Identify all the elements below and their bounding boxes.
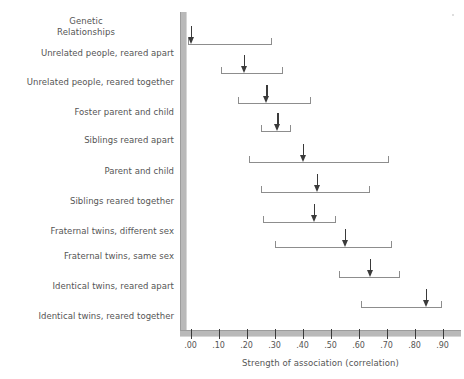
x-axis-tick-label: .80 — [402, 341, 428, 350]
median-arrow-marker — [262, 85, 271, 103]
x-axis-tick-label: .00 — [178, 341, 204, 350]
correlation-range-chart: Genetic Relationships Unrelated people, … — [0, 0, 464, 379]
range-bracket — [249, 156, 389, 163]
category-label: Foster parent and child — [2, 107, 174, 117]
arrow-head-icon — [311, 215, 317, 222]
x-axis-bar — [180, 330, 461, 337]
header-line-1: Genetic — [0, 16, 172, 27]
category-label: Fraternal twins, same sex — [2, 251, 174, 261]
arrow-head-icon — [300, 155, 306, 162]
arrow-head-icon — [342, 240, 348, 247]
median-arrow-marker — [313, 174, 322, 192]
x-axis-tick — [387, 329, 388, 339]
arrow-head-icon — [314, 185, 320, 192]
median-arrow-marker — [341, 229, 350, 247]
x-axis-tick-label: .50 — [318, 341, 344, 350]
x-axis-tick — [247, 329, 248, 339]
x-axis-tick — [303, 329, 304, 339]
median-arrow-marker — [187, 26, 196, 44]
category-label: Parent and child — [2, 166, 174, 176]
category-label: Unrelated people, reared together — [2, 77, 174, 87]
x-axis-tick-label: .30 — [262, 341, 288, 350]
x-axis-tick-label: .70 — [374, 341, 400, 350]
y-axis-bar — [180, 12, 187, 337]
range-bracket — [275, 241, 393, 248]
x-axis-tick — [219, 329, 220, 339]
category-label: Fraternal twins, different sex — [2, 226, 174, 236]
median-arrow-marker — [273, 113, 282, 131]
x-axis-tick — [443, 329, 444, 339]
range-bracket — [188, 38, 272, 45]
arrow-head-icon — [274, 124, 280, 131]
x-axis-tick-label: .20 — [234, 341, 260, 350]
range-bracket — [221, 67, 283, 74]
median-arrow-marker — [310, 204, 319, 222]
median-arrow-marker — [299, 144, 308, 162]
x-axis-tick — [331, 329, 332, 339]
category-label: Identical twins, reared together — [2, 311, 174, 321]
arrow-head-icon — [241, 66, 247, 73]
median-arrow-marker — [240, 55, 249, 73]
x-axis-tick-label: .90 — [430, 341, 456, 350]
category-label: Identical twins, reared apart — [2, 281, 174, 291]
category-label: Unrelated people, reared apart — [2, 48, 174, 58]
median-arrow-marker — [366, 259, 375, 277]
arrow-head-icon — [188, 37, 194, 44]
x-axis-title: Strength of association (correlation) — [180, 358, 461, 368]
arrow-head-icon — [367, 270, 373, 277]
median-arrow-marker — [422, 289, 431, 307]
arrow-head-icon — [263, 96, 269, 103]
x-axis-tick-label: .10 — [206, 341, 232, 350]
x-axis-tick — [275, 329, 276, 339]
arrow-head-icon — [423, 300, 429, 307]
corner-speck — [452, 14, 454, 16]
x-axis-tick — [359, 329, 360, 339]
x-axis-tick-label: .60 — [346, 341, 372, 350]
header-line-2: Relationships — [0, 27, 172, 38]
genetic-relationships-header: Genetic Relationships — [0, 16, 172, 38]
range-bracket — [238, 97, 311, 104]
x-axis-tick-label: .40 — [290, 341, 316, 350]
x-axis-tick — [415, 329, 416, 339]
range-bracket — [263, 216, 336, 223]
x-axis-tick — [191, 329, 192, 339]
category-label: Siblings reared apart — [2, 135, 174, 145]
category-label: Siblings reared together — [2, 196, 174, 206]
